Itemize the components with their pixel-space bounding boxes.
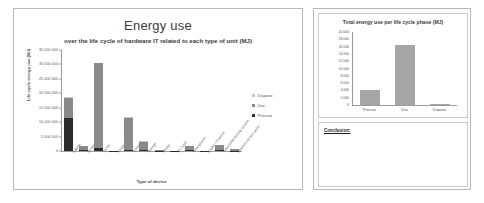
bar-slot: Wireless access point <box>227 50 242 151</box>
x-axis-line-right <box>352 105 457 106</box>
x-tick-label-right: Dispose <box>422 108 457 112</box>
y-tick-label: 20 000 000 <box>39 91 58 95</box>
plot-area-right: 02 0004 0006 0008 00010 00012 00014 0001… <box>352 32 457 105</box>
y-axis-title: Life cycle energy use (MJ) <box>26 49 31 101</box>
bar-slot: Copier / Scanner <box>197 50 212 151</box>
bar-slot: Videoconferencing system <box>212 50 227 151</box>
conclusion-box[interactable]: Conclusion: <box>318 122 468 187</box>
legend-item[interactable]: Procure <box>252 113 273 118</box>
legend-label: Use <box>258 103 265 108</box>
y-tick-label-right: 8 000 <box>341 74 350 78</box>
bar-slot-right: Procure <box>352 32 387 105</box>
bar-slot: Smartphone <box>182 50 197 151</box>
slide-canvas: Energy use over the life cycle of hardwa… <box>0 0 484 203</box>
page-title: Energy use <box>14 18 302 33</box>
total-energy-chart: Total energy use per life cycle phase (M… <box>318 13 468 118</box>
y-tick-label-right: 12 000 <box>339 59 349 63</box>
bar-slot: Desktop <box>76 50 91 151</box>
bar-slot: Router <box>106 50 121 151</box>
y-tick-label: 25 000 000 <box>39 77 58 81</box>
y-tick-label: 30 000 000 <box>39 62 58 66</box>
y-tick-label-right: 2 000 <box>341 96 350 100</box>
chart-subtitle: over the life cycle of hardware IT relat… <box>14 37 302 44</box>
plot-area-left: 05 000 00010 000 00015 000 00020 000 000… <box>61 50 242 151</box>
legend-label: Dispose <box>258 93 273 98</box>
chart-title-right: Total energy use per life cycle phase (M… <box>319 19 467 25</box>
y-tick-label: 0 <box>56 149 58 153</box>
stacked-bar[interactable] <box>64 97 73 151</box>
legend-label: Procure <box>258 113 273 118</box>
x-tick-label-right: Use <box>387 108 422 112</box>
y-tick-label: 35 000 000 <box>39 48 58 52</box>
bar-segment-use <box>94 63 103 148</box>
bar-segment-use <box>64 98 73 118</box>
y-tick-label: 10 000 000 <box>39 120 58 124</box>
legend-item[interactable]: Dispose <box>252 93 273 98</box>
bar-slot-right: Dispose <box>422 32 457 105</box>
y-tick-label-right: 4 000 <box>341 88 350 92</box>
bar-dispose[interactable] <box>430 104 450 105</box>
bar-slot: Storage <box>136 50 151 151</box>
chart-legend: DisposeUseProcure <box>252 93 273 123</box>
bar-segment-procure <box>64 118 73 151</box>
bar-group-right: ProcureUseDispose <box>352 32 457 105</box>
x-tick-label: Wireless access point <box>237 125 261 154</box>
bar-slot-right: Use <box>387 32 422 105</box>
x-tick-label-right: Procure <box>352 108 387 112</box>
bar-procure[interactable] <box>360 90 380 105</box>
legend-swatch-icon <box>252 114 255 117</box>
stacked-bar[interactable] <box>94 63 103 151</box>
bar-slot: Printer <box>151 50 166 151</box>
y-tick-label-right: 14 000 <box>339 52 349 56</box>
bar-slot: Server <box>91 50 106 151</box>
y-tick-label-right: 0 <box>347 103 349 107</box>
bar-segment-use <box>124 118 133 150</box>
bar-slot: IP / VoIP <box>167 50 182 151</box>
conclusion-label: Conclusion: <box>324 128 351 133</box>
bar-slot: Screen <box>121 50 136 151</box>
bar-slot: Laptop <box>61 50 76 151</box>
legend-swatch-icon <box>252 94 255 97</box>
bar-group: LaptopDesktopServerRouterScreenStoragePr… <box>61 50 242 151</box>
y-tick-label-right: 10 000 <box>339 67 349 71</box>
y-tick-label-right: 6 000 <box>341 81 350 85</box>
right-side-panel: Total energy use per life cycle phase (M… <box>313 8 471 190</box>
y-tick-label-right: 18 000 <box>339 37 349 41</box>
y-tick-label-right: 16 000 <box>339 45 349 49</box>
stacked-bar[interactable] <box>124 117 133 151</box>
legend-item[interactable]: Use <box>252 103 273 108</box>
y-tick-label: 15 000 000 <box>39 106 58 110</box>
x-axis-title: Type of device <box>61 179 242 184</box>
energy-use-chart: Energy use over the life cycle of hardwa… <box>14 9 302 189</box>
bar-use[interactable] <box>395 45 415 105</box>
left-chart-panel: Energy use over the life cycle of hardwa… <box>13 8 303 190</box>
y-tick-label: 5 000 000 <box>41 135 58 139</box>
y-tick-label-right: 20 000 <box>339 30 349 34</box>
legend-swatch-icon <box>252 104 255 107</box>
